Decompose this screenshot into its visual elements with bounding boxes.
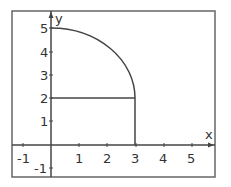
svg-text:5: 5: [187, 151, 195, 166]
svg-text:4: 4: [159, 151, 167, 166]
x-axis-label: x: [205, 127, 213, 142]
svg-text:1: 1: [40, 114, 48, 129]
svg-text:5: 5: [40, 21, 48, 36]
y-axis-arrow-icon: [49, 12, 54, 18]
figure: y x -1 1 2 3 4 5 -1 1 2 3 4 5: [0, 0, 231, 187]
y-tick-labels: -1 1 2 3 4 5: [34, 21, 48, 176]
arc-curve: [51, 28, 135, 98]
svg-text:2: 2: [40, 91, 48, 106]
svg-text:2: 2: [103, 151, 111, 166]
svg-text:3: 3: [40, 68, 48, 83]
svg-text:3: 3: [131, 151, 139, 166]
svg-text:4: 4: [40, 45, 48, 60]
svg-text:-1: -1: [34, 161, 47, 176]
svg-text:-1: -1: [17, 151, 30, 166]
x-axis-arrow-icon: [208, 143, 214, 148]
y-axis-label: y: [55, 11, 63, 26]
svg-text:1: 1: [75, 151, 83, 166]
